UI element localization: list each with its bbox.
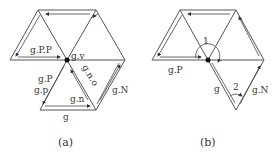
label-g: g	[63, 112, 69, 122]
vertex-v-dot	[65, 58, 70, 63]
label-g-n: g.n	[70, 94, 85, 104]
label-g-p: g.p	[34, 85, 49, 95]
label-g-P: g.P	[168, 65, 183, 75]
label-g-N: g.N	[112, 85, 129, 95]
vertex-dot	[206, 58, 211, 63]
label-g-P-P: g.P.P	[30, 45, 52, 55]
diagram-canvas: g.P.P g.v g.P g.p g.n.o g.n g g.N (a)	[0, 0, 278, 155]
label-g-N: g.N	[252, 85, 269, 95]
caption-b: (b)	[200, 136, 216, 149]
caption-a: (a)	[58, 136, 73, 149]
panel-b: 1 2 g.P g g.N (b)	[152, 10, 269, 149]
angle-arc-2	[230, 94, 242, 96]
panel-a: g.P.P g.v g.P g.p g.n.o g.n g g.N (a)	[10, 10, 129, 149]
label-g-n-o: g.n.o	[80, 63, 100, 88]
label-g-v: g.v	[71, 51, 86, 61]
label-g: g	[214, 84, 220, 94]
label-angle-1: 1	[203, 36, 209, 46]
label-angle-2: 2	[233, 82, 239, 92]
label-g-P: g.P	[38, 74, 53, 84]
